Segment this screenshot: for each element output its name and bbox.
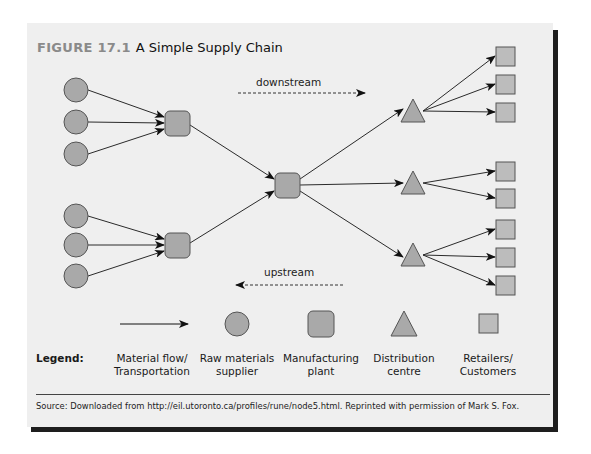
retailer-node bbox=[496, 276, 515, 295]
plant-node bbox=[165, 233, 190, 258]
dc-to-retailer-arrow bbox=[423, 111, 495, 112]
frame-shadow-right bbox=[553, 30, 558, 432]
retailer-node bbox=[496, 248, 515, 267]
plant-to-dc-arrow bbox=[300, 109, 403, 179]
downstream-label: downstream bbox=[256, 76, 321, 88]
distribution-centre-node bbox=[401, 243, 425, 266]
dc-to-retailer-arrow bbox=[423, 84, 495, 111]
supply-chain-diagram: downstream upstream Legend: Material flo… bbox=[27, 23, 553, 393]
legend-supplier-line2: supplier bbox=[216, 365, 259, 377]
legend-plant-line1: Manufacturing bbox=[283, 352, 359, 364]
frame-shadow-bottom bbox=[31, 427, 558, 432]
legend-retailer-line1: Retailers/ bbox=[463, 352, 513, 364]
supplier-node bbox=[64, 233, 88, 257]
supplier-node bbox=[64, 204, 88, 228]
supplier-node bbox=[64, 78, 88, 102]
figure-panel: FIGURE 17.1A Simple Supply Chain downstr… bbox=[27, 23, 553, 427]
supplier-to-plant-arrow bbox=[88, 129, 164, 154]
plant-node bbox=[165, 111, 190, 136]
legend-plant-line2: plant bbox=[308, 365, 335, 377]
supplier-to-plant-arrow bbox=[88, 251, 164, 276]
retailer-node bbox=[496, 47, 515, 66]
supplier-node bbox=[64, 264, 88, 288]
source-note: Source: Downloaded from http://eil.utoro… bbox=[36, 401, 519, 411]
supplier-to-plant-arrow bbox=[88, 90, 164, 117]
plant-to-plant-arrow bbox=[190, 191, 274, 243]
distribution-centre-node bbox=[401, 99, 425, 122]
source-divider bbox=[36, 394, 550, 395]
plant-to-dc-arrow bbox=[300, 183, 403, 185]
retailer-node bbox=[496, 220, 515, 239]
plant-node bbox=[275, 173, 300, 198]
dc-to-retailer-arrow bbox=[423, 171, 495, 183]
retailer-node bbox=[496, 103, 515, 122]
supplier-node bbox=[64, 142, 88, 166]
dc-to-retailer-arrow bbox=[423, 183, 495, 198]
supplier-node bbox=[64, 110, 88, 134]
legend-dc-line1: Distribution bbox=[373, 352, 434, 364]
retailer-node bbox=[496, 189, 515, 208]
retailer-node bbox=[496, 75, 515, 94]
legend-rounded-square-icon bbox=[308, 311, 334, 337]
plant-to-dc-arrow bbox=[300, 191, 403, 257]
dc-to-retailer-arrow bbox=[423, 56, 495, 111]
legend-dc-line2: centre bbox=[387, 365, 421, 377]
supplier-to-plant-arrow bbox=[88, 216, 164, 239]
legend-triangle-icon bbox=[391, 311, 417, 336]
legend: Legend: Material flow/ Transportation Ra… bbox=[36, 311, 516, 377]
plant-to-plant-arrow bbox=[190, 125, 274, 179]
legend-supplier-line1: Raw materials bbox=[200, 352, 275, 364]
flow-arrows bbox=[88, 56, 495, 285]
legend-circle-icon bbox=[225, 312, 249, 336]
legend-retailer-line2: Customers bbox=[460, 365, 516, 377]
retailer-node bbox=[496, 162, 515, 181]
legend-flow-line1: Material flow/ bbox=[116, 352, 188, 364]
dc-to-retailer-arrow bbox=[423, 255, 495, 257]
dc-to-retailer-arrow bbox=[423, 229, 495, 255]
legend-flow-line2: Transportation bbox=[113, 365, 190, 377]
legend-heading: Legend: bbox=[36, 352, 84, 364]
supplier-to-plant-arrow bbox=[88, 122, 164, 123]
distribution-centre-node bbox=[401, 171, 425, 194]
legend-square-icon bbox=[479, 314, 498, 333]
upstream-label: upstream bbox=[264, 266, 314, 278]
dc-to-retailer-arrow bbox=[423, 255, 495, 285]
